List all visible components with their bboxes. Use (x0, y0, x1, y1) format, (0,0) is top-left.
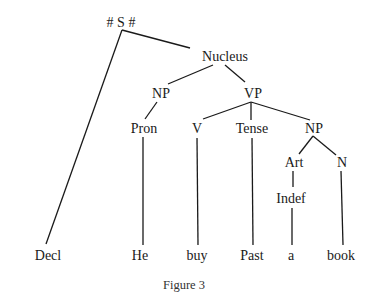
leaf-decl: Decl (35, 248, 62, 263)
node-np-subject: NP (152, 86, 170, 101)
node-s: # S # (107, 15, 136, 30)
edge-tense-past (252, 138, 253, 245)
node-v: V (192, 121, 202, 136)
node-n: N (337, 155, 347, 170)
leaf-buy: buy (187, 248, 208, 263)
figure-caption: Figure 3 (163, 278, 205, 292)
leaf-he: He (132, 248, 148, 263)
node-tense: Tense (236, 121, 268, 136)
edge-s-decl (46, 30, 122, 244)
node-indef: Indef (276, 191, 306, 206)
edge-vp-v (203, 102, 251, 119)
edge-np-pron (145, 102, 157, 119)
node-art: Art (285, 155, 304, 170)
edge-vp-np (251, 102, 310, 120)
edge-s-nucleus (122, 30, 190, 48)
node-vp: VP (244, 86, 262, 101)
syntax-tree-figure: # S # Nucleus NP VP Pron V Tense NP Art … (0, 0, 368, 299)
edge-nucleus-vp (225, 65, 245, 82)
tree-edges (46, 30, 343, 245)
edge-v-buy (197, 138, 198, 245)
edge-n-book (341, 171, 343, 245)
edge-np-art (299, 136, 313, 154)
leaf-past: Past (240, 248, 263, 263)
edge-nucleus-np (168, 65, 213, 84)
node-nucleus: Nucleus (202, 49, 248, 64)
leaf-a: a (288, 248, 295, 263)
node-np-object: NP (305, 121, 323, 136)
leaf-book: book (327, 248, 355, 263)
edge-np-n (313, 136, 336, 155)
node-pron: Pron (131, 121, 157, 136)
